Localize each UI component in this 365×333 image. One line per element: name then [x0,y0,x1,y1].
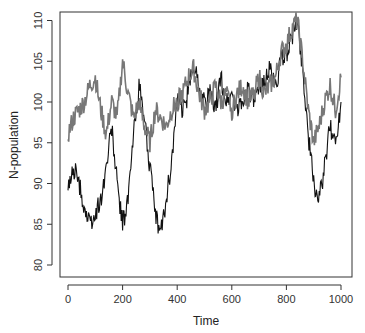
x-axis: 02004006008001000 [65,285,353,305]
series-lines [68,12,341,233]
y-tick-label: 100 [32,93,44,111]
y-tick-label: 105 [32,52,44,70]
x-tick-label: 400 [168,293,186,305]
y-tick-label: 95 [32,137,44,149]
x-tick-label: 600 [223,293,241,305]
x-tick-label: 800 [277,293,295,305]
y-tick-label: 90 [32,177,44,189]
y-tick-label: 110 [32,12,44,30]
x-tick-label: 0 [65,293,71,305]
y-axis: 80859095100105110 [32,12,52,271]
chart-container: 80859095100105110 02004006008001000 Time… [0,0,365,333]
y-tick-label: 85 [32,218,44,230]
y-axis-title: N-population [7,111,21,179]
y-tick-label: 80 [32,259,44,271]
x-axis-title: Time [193,314,220,328]
line-chart: 80859095100105110 02004006008001000 Time… [0,0,365,333]
x-tick-label: 1000 [329,293,353,305]
series-gray-line [68,12,341,152]
x-tick-label: 200 [113,293,131,305]
